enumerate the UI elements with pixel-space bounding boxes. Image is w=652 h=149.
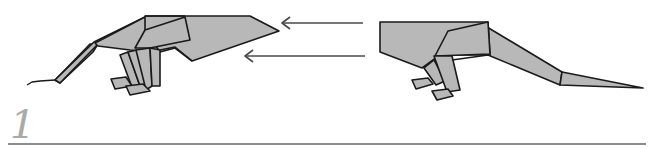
right-origami-model: [380, 22, 643, 100]
step-number: 1: [10, 104, 35, 144]
diagram-stage: 1: [0, 0, 652, 149]
arrow-lower-left-icon: [245, 50, 365, 62]
arrow-upper-left-icon: [282, 17, 363, 29]
diagram-canvas: [0, 0, 652, 149]
step-divider-rule: [8, 143, 646, 145]
left-origami-model: [27, 16, 279, 95]
